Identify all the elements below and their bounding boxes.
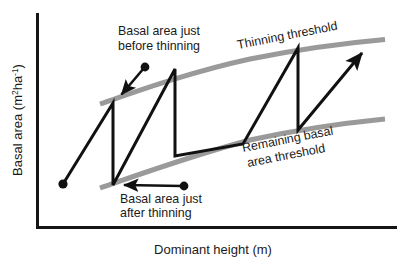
- callout-after-thinning-line1: Basal area just: [120, 192, 203, 206]
- figure-container: Basal area just before thinning Basal ar…: [0, 0, 412, 266]
- callout-after-thinning-line2: after thinning: [120, 206, 192, 220]
- y-axis-title-mid: ha: [10, 75, 25, 90]
- after-thinning-leader-dot: [180, 182, 189, 191]
- callout-before-thinning-line2: before thinning: [118, 39, 200, 53]
- y-axis-title: Basal area (m2ha-1): [10, 64, 25, 176]
- callout-before-thinning-line1: Basal area just: [118, 24, 201, 38]
- y-axis-title-close-paren: ): [10, 64, 25, 68]
- trajectory-start-dot: [58, 179, 67, 188]
- svg-text:Basal area (m2ha-1): Basal area (m2ha-1): [10, 64, 25, 176]
- x-axis-title: Dominant height (m): [154, 242, 272, 257]
- thinning-diagram: Basal area just before thinning Basal ar…: [0, 0, 412, 266]
- before-thinning-leader-dot: [141, 63, 150, 72]
- y-axis-title-main: Basal area (m: [10, 95, 25, 176]
- after-thinning-leader-line: [124, 185, 183, 186]
